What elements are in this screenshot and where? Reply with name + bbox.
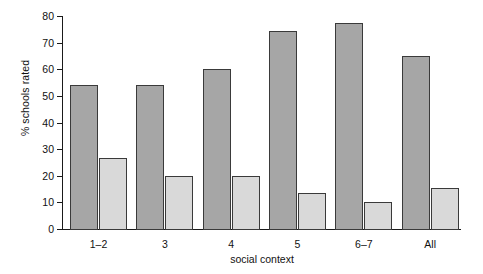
y-axis-tick xyxy=(57,96,62,97)
y-axis-tick xyxy=(57,229,62,230)
y-axis-tick-label: 30 xyxy=(14,144,54,154)
bar xyxy=(431,188,459,230)
bar xyxy=(335,23,363,230)
y-axis-tick xyxy=(57,176,62,177)
bar xyxy=(99,158,127,230)
y-axis-tick xyxy=(57,16,62,17)
bar xyxy=(402,56,430,230)
y-axis-tick xyxy=(57,149,62,150)
bar xyxy=(165,176,193,230)
y-axis-tick-label: 20 xyxy=(14,171,54,181)
bar xyxy=(298,193,326,230)
y-axis-tick xyxy=(57,69,62,70)
bar xyxy=(203,69,231,230)
bar-chart: % schools rated 01020304050607080 1–2345… xyxy=(0,0,483,274)
y-axis-tick xyxy=(57,202,62,203)
x-axis-title: social context xyxy=(62,253,462,265)
y-axis-line xyxy=(62,16,63,230)
y-axis-tick-label: 0 xyxy=(14,224,54,234)
y-axis-tick xyxy=(57,43,62,44)
bar xyxy=(70,85,98,230)
y-axis-tick-label: 70 xyxy=(14,38,54,48)
bar xyxy=(232,176,260,230)
y-axis-tick-label: 50 xyxy=(14,91,54,101)
bar xyxy=(364,202,392,230)
y-axis-tick-label: 80 xyxy=(14,11,54,21)
bar xyxy=(136,85,164,230)
y-axis-tick-label: 60 xyxy=(14,64,54,74)
x-axis-tick-label: All xyxy=(390,238,471,250)
bar xyxy=(269,31,297,230)
y-axis-tick xyxy=(57,123,62,124)
plot-area: 01020304050607080 1–23456–7All xyxy=(62,16,460,229)
y-axis-tick-label: 40 xyxy=(14,118,54,128)
y-axis-tick-label: 10 xyxy=(14,197,54,207)
